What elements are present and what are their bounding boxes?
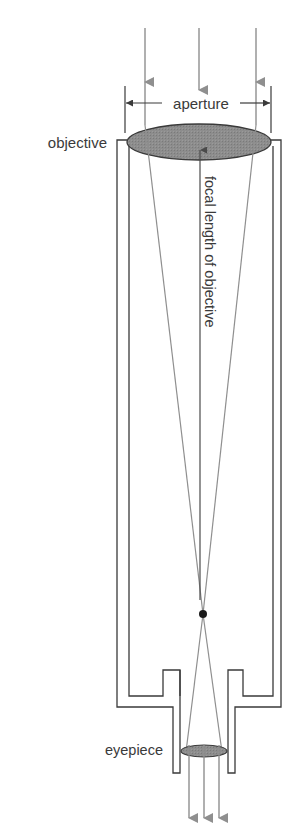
telescope-tube: [117, 140, 281, 773]
focal-length-label: focal length of objective: [202, 176, 218, 328]
eyepiece-label: eyepiece: [105, 742, 163, 758]
focal-point: [199, 610, 207, 618]
telescope-diagram: aperture focal length of objective objec…: [0, 0, 303, 838]
aperture-label: aperture: [173, 95, 229, 112]
objective-label: objective: [48, 134, 107, 151]
